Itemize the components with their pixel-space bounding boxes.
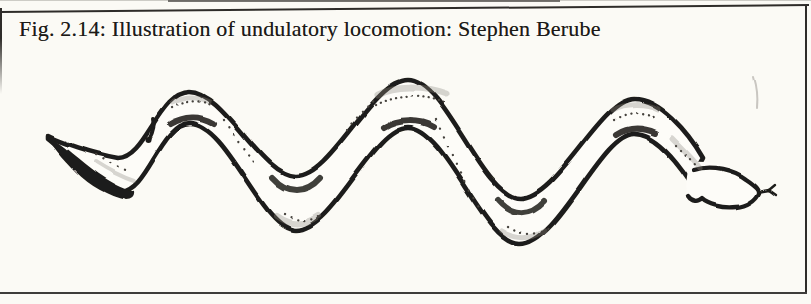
- figure-frame: Fig. 2.14: Illustration of undulatory lo…: [0, 0, 811, 304]
- snake-illustration: [0, 0, 811, 304]
- scan-scratch-mark: [753, 78, 756, 108]
- snake-head: [686, 162, 759, 208]
